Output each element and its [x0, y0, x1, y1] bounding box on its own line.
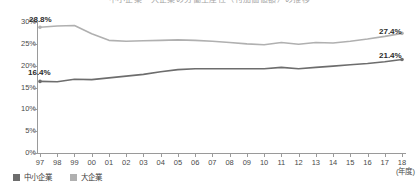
x-axis-tick-label: 06	[186, 158, 204, 167]
y-axis-tick-label: 15%	[2, 84, 36, 92]
x-axis-tick-label: 99	[65, 158, 83, 167]
series-line-sme	[40, 60, 402, 82]
x-axis: 9798990001020304050607080910111213141516…	[37, 154, 406, 168]
x-axis-tick-mark	[350, 154, 351, 157]
x-axis-tick-mark	[57, 154, 58, 157]
x-axis-tick-label: 16	[359, 158, 377, 167]
x-axis-tick-label: 09	[238, 158, 256, 167]
x-axis-tick-label: 07	[203, 158, 221, 167]
series-endpoint-marker	[38, 80, 42, 84]
chart-legend: 中小企業大企業	[13, 171, 102, 183]
x-axis-tick-label: 14	[324, 158, 342, 167]
x-axis-tick-mark	[333, 154, 334, 157]
x-axis-tick-mark	[264, 154, 265, 157]
x-axis-tick-mark	[230, 154, 231, 157]
x-axis-tick-label: 18	[393, 158, 411, 167]
x-axis-tick-label: 04	[152, 158, 170, 167]
x-axis-tick-label: 98	[48, 158, 66, 167]
series-line-large-enterprise	[40, 25, 402, 44]
x-axis-tick-mark	[316, 154, 317, 157]
x-axis-tick-mark	[385, 154, 386, 157]
x-axis-tick-mark	[109, 154, 110, 157]
x-axis-tick-label: 05	[169, 158, 187, 167]
series-lines	[37, 22, 405, 153]
x-axis-tick-mark	[402, 154, 403, 157]
legend-label: 中小企業	[24, 173, 52, 182]
x-axis-tick-mark	[74, 154, 75, 157]
x-axis-tick-mark	[299, 154, 300, 157]
chart-title: 中小企業・大企業の労働生産性（付加価値額）の推移	[0, 0, 419, 5]
legend-label: 大企業	[81, 173, 102, 182]
plot-area	[37, 22, 405, 153]
x-axis-tick-mark	[212, 154, 213, 157]
y-axis-tick-label: 5%	[2, 127, 36, 135]
x-axis-tick-label: 15	[341, 158, 359, 167]
x-axis-tick-label: 01	[100, 158, 118, 167]
x-axis-tick-label: 13	[307, 158, 325, 167]
legend-swatch-icon	[13, 174, 20, 181]
x-axis-tick-label: 17	[376, 158, 394, 167]
y-axis-tick-label: 10%	[2, 105, 36, 113]
data-label-sme-start: 16.4%	[28, 68, 51, 77]
x-axis-tick-label: 00	[83, 158, 101, 167]
x-axis-tick-mark	[126, 154, 127, 157]
data-label-large-start: 28.8%	[29, 15, 52, 24]
x-axis-caption: (年度)	[396, 167, 415, 177]
x-axis-tick-label: 12	[290, 158, 308, 167]
x-axis-tick-label: 11	[272, 158, 290, 167]
y-axis-tick-label: 25%	[2, 40, 36, 48]
line-chart: 中小企業・大企業の労働生産性（付加価値額）の推移 0%5%10%15%20%25…	[0, 0, 419, 187]
x-axis-tick-label: 03	[134, 158, 152, 167]
x-axis-tick-mark	[247, 154, 248, 157]
legend-item[interactable]: 中小企業	[13, 171, 52, 183]
x-axis-tick-mark	[368, 154, 369, 157]
x-axis-tick-mark	[143, 154, 144, 157]
x-axis-tick-mark	[40, 154, 41, 157]
x-axis-tick-label: 02	[117, 158, 135, 167]
x-axis-tick-mark	[281, 154, 282, 157]
y-axis-tick-label: 0%	[2, 149, 36, 157]
data-label-large-end: 27.4%	[379, 27, 402, 36]
x-axis-tick-mark	[195, 154, 196, 157]
x-axis-tick-label: 10	[255, 158, 273, 167]
legend-item[interactable]: 大企業	[70, 171, 102, 183]
x-axis-tick-mark	[161, 154, 162, 157]
x-axis-tick-label: 08	[221, 158, 239, 167]
series-endpoint-marker	[38, 25, 42, 29]
x-axis-tick-mark	[92, 154, 93, 157]
x-axis-tick-label: 97	[31, 158, 49, 167]
x-axis-tick-mark	[178, 154, 179, 157]
data-label-sme-end: 21.4%	[379, 51, 402, 60]
legend-swatch-icon	[70, 174, 77, 181]
